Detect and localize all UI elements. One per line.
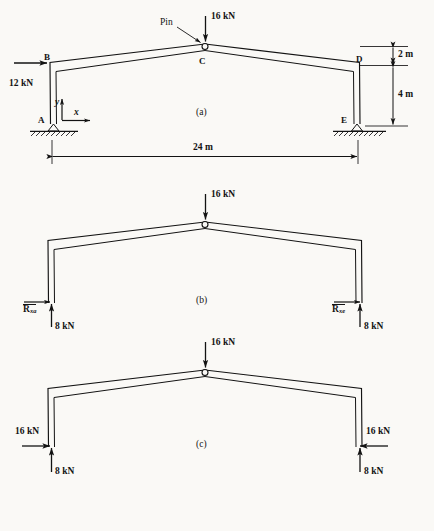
axis-x-label: x (74, 108, 79, 118)
apex-load-label-a: 16 kN (211, 12, 235, 22)
reaction-subscript-left-b: xa (30, 307, 37, 314)
figure-root: Pin 16 kN 12 kN B C D A E y x 2 m 4 m 24… (0, 0, 434, 531)
figure-canvas (0, 0, 434, 531)
apex-pin-circle-b (202, 222, 208, 228)
left-horizontal-reaction-label-c: 16 kN (15, 427, 39, 437)
panel-c-geometry (22, 342, 388, 472)
axis-y-label: y (55, 98, 59, 108)
right-vertical-reaction-label-c: 8 kN (364, 467, 383, 477)
joint-label-c: C (199, 57, 206, 66)
apex-load-label-b: 16 kN (211, 190, 235, 200)
right-vertical-reaction-label-b: 8 kN (364, 322, 383, 332)
dimension-label-4m: 4 m (398, 90, 413, 100)
dimension-label-24m: 24 m (193, 143, 213, 153)
joint-label-e: E (341, 116, 347, 125)
left-vertical-reaction-label-c: 8 kN (55, 467, 74, 477)
reaction-symbol-right-b: R (332, 304, 339, 314)
frame-outer-line-c (48, 370, 362, 447)
pin-callout-leader (177, 27, 201, 43)
dimension-label-2m: 2 m (398, 50, 413, 60)
left-horizontal-reaction-label-b: Rxa (23, 304, 36, 315)
pin-callout-label: Pin (160, 18, 173, 28)
apex-pin-circle-a (202, 44, 208, 50)
panel-b-geometry (24, 194, 362, 327)
reaction-subscript-right-b: xe (339, 307, 345, 314)
joint-label-d: D (356, 55, 363, 64)
apex-pin-circle-c (202, 370, 208, 376)
panel-caption-c: (c) (196, 440, 207, 450)
reaction-symbol-left-b: R (23, 304, 30, 314)
joint-label-b: B (44, 53, 50, 62)
left-vertical-reaction-label-b: 8 kN (55, 322, 74, 332)
apex-load-label-c: 16 kN (211, 338, 235, 348)
right-horizontal-reaction-label-c: 16 kN (366, 427, 390, 437)
frame-inner-line-b (54, 229, 356, 304)
right-horizontal-reaction-label-b: Rxe (332, 304, 345, 315)
panel-caption-a: (a) (196, 108, 207, 118)
frame-outer-line-b (48, 222, 362, 303)
panel-caption-b: (b) (196, 296, 207, 306)
support-a (30, 124, 78, 136)
lateral-load-label-a: 12 kN (9, 79, 33, 89)
frame-inner-line-c (54, 377, 356, 448)
joint-label-a: A (38, 116, 45, 125)
